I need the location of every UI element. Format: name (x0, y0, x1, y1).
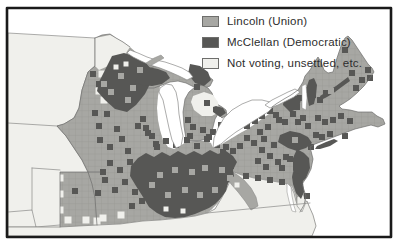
legend-item-mcclellan: McClellan (Democratic) (202, 37, 362, 48)
legend-label-lincoln: Lincoln (Union) (227, 16, 307, 27)
mcclellan-color-swatch (202, 37, 219, 48)
notvoting-color-swatch (202, 58, 219, 69)
lincoln-color-swatch (202, 16, 219, 27)
election-map-figure: Lincoln (Union) McClellan (Democratic) N… (0, 0, 397, 245)
legend-label-notvoting: Not voting, unsettled, etc. (227, 58, 362, 69)
legend-label-mcclellan: McClellan (Democratic) (227, 37, 351, 48)
map-legend: Lincoln (Union) McClellan (Democratic) N… (202, 16, 362, 79)
lake-michigan (159, 84, 183, 148)
legend-item-lincoln: Lincoln (Union) (202, 16, 362, 27)
lake-champlain (302, 84, 307, 110)
legend-item-notvoting: Not voting, unsettled, etc. (202, 58, 362, 69)
